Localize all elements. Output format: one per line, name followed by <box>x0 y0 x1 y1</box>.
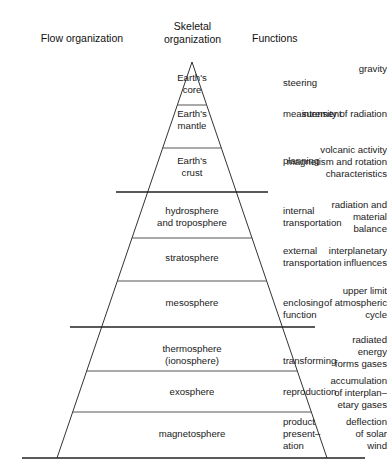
function-label-2: measurement <box>283 108 383 120</box>
layer-label-magnetosphere: magnetosphere <box>127 428 257 440</box>
layer-label-earths-core: Earth's core <box>152 72 232 95</box>
layer-label-thermosphere: thermosphere (ionosphere) <box>132 343 252 366</box>
layer-label-exosphere: exosphere <box>137 386 247 398</box>
flow-label-1: gravity <box>227 63 387 75</box>
pyramid-diagram: Flow organization Skeletal organization … <box>0 0 387 476</box>
function-label-9: product present– ation <box>283 416 383 451</box>
function-label-4: internal transportation <box>283 205 383 229</box>
function-label-3: planning <box>283 155 383 167</box>
layer-label-hydrosphere: hydrosphere and troposphere <box>132 205 252 228</box>
layer-label-earths-crust: Earth's crust <box>152 155 232 178</box>
layer-label-stratosphere: stratosphere <box>137 252 247 264</box>
function-label-8: reproduction <box>283 386 383 398</box>
function-label-6: enclosing function <box>283 297 383 321</box>
layer-label-earths-mantle: Earth's mantle <box>152 108 232 131</box>
function-label-5: external transportation <box>283 245 383 269</box>
function-label-1: steering <box>283 77 383 89</box>
function-label-7: transforming <box>283 355 383 367</box>
layer-label-mesosphere: mesosphere <box>137 297 247 309</box>
